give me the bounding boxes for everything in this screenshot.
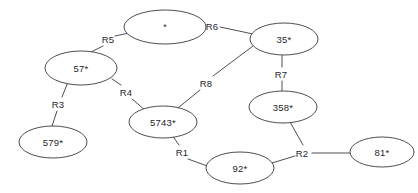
node-35[interactable]: 35* [250,23,318,55]
edge-label-r4: R4 [120,87,133,98]
nodes-layer: * 35* 57* 5743* 358* 579* [19,10,414,184]
edge-label-r8: R8 [200,78,213,89]
graph-canvas: * 35* 57* 5743* 358* 579* [0,0,418,193]
node-star[interactable]: * [124,10,206,44]
node-579[interactable]: 579* [19,126,87,158]
edge-label-r1: R1 [176,147,189,158]
edge-r3-579 [52,111,57,126]
node-92[interactable]: 92* [206,152,274,184]
edge-r5-57 [91,46,103,52]
edge-r2-92 [272,156,295,163]
node-label: 579* [43,137,63,148]
edge-r4-5743 [132,99,145,110]
edge-r8-35 [213,46,253,76]
node-81[interactable]: 81* [350,137,414,167]
node-label: 5743* [150,117,176,128]
graph-diagram: * 35* 57* 5743* 358* 579* [0,0,418,193]
node-5743[interactable]: 5743* [129,106,197,138]
edge-r6-35 [220,27,253,34]
edge-r4-57 [112,79,121,85]
node-358[interactable]: 358* [249,91,317,123]
edge-label-r7: R7 [275,69,288,80]
node-label: 92* [233,163,248,174]
node-label: 81* [375,147,390,158]
edge-r8-5743 [178,90,200,108]
edge-r3-57 [62,82,68,97]
node-label: 57* [74,63,89,74]
edge-label-r6: R6 [206,21,219,32]
node-label: 35* [277,34,292,45]
node-57[interactable]: 57* [45,51,117,85]
edge-label-r3: R3 [52,99,65,110]
edge-label-r5: R5 [102,34,115,45]
edge-label-r2: R2 [296,148,309,159]
edge-r2-358 [290,122,303,145]
node-label: 358* [273,102,293,113]
node-label: * [163,22,167,32]
